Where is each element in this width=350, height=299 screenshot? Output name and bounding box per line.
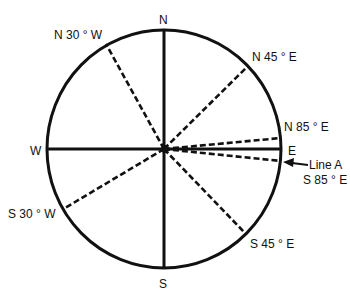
label-west: W — [30, 144, 42, 158]
bearing-line-n45e — [164, 66, 248, 149]
center-point — [161, 145, 169, 153]
bearing-line-s30w — [65, 149, 164, 208]
line-a-arrow-shaft — [292, 163, 308, 165]
label-s85e: S 85 ° E — [303, 173, 347, 187]
label-s45e: S 45 ° E — [250, 237, 294, 251]
bearing-line-s45e — [164, 149, 246, 234]
label-s30w: S 30 ° W — [8, 207, 56, 221]
label-n85e: N 85 ° E — [284, 120, 329, 134]
label-n45e: N 45 ° E — [252, 50, 297, 64]
label-south: S — [159, 277, 167, 291]
bearing-line-s85e-line-a — [164, 149, 281, 161]
label-east: E — [288, 144, 296, 158]
compass-diagram: N S E W N 30 ° W N 45 ° E N 85 ° E Line … — [0, 0, 350, 299]
bearing-line-n30w — [106, 44, 164, 149]
bearing-line-n85e — [164, 138, 281, 149]
line-a-arrow-head — [283, 158, 294, 167]
label-n30w: N 30 ° W — [54, 28, 103, 42]
label-line-a: Line A — [309, 158, 342, 172]
label-north: N — [159, 13, 168, 27]
